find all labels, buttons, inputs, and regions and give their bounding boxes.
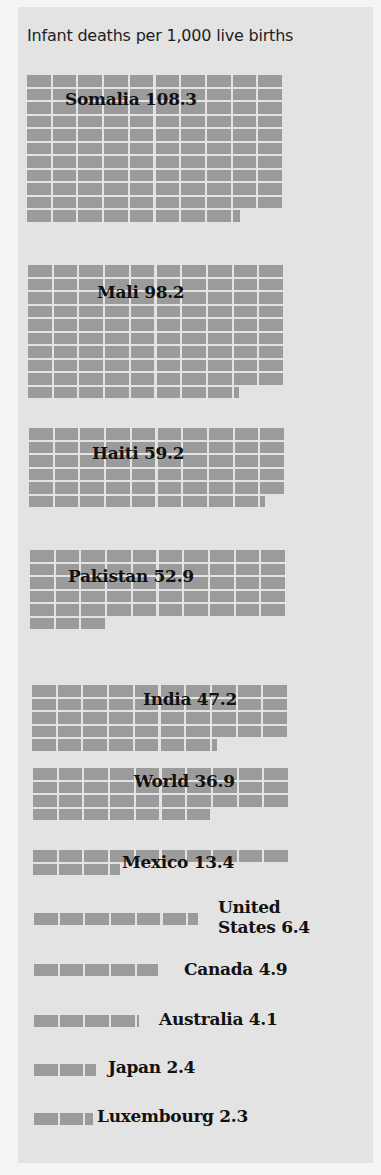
unit-cell	[55, 496, 79, 508]
unit-cell	[234, 319, 258, 331]
unit-cell	[236, 604, 260, 616]
unit-cell	[81, 591, 105, 603]
unit-cell	[104, 170, 128, 182]
partial-unit-cell	[260, 496, 265, 508]
unit-cell	[182, 346, 206, 358]
country-label-line: States 6.4	[218, 918, 310, 938]
unit-cell	[106, 428, 130, 440]
unit-cell	[258, 116, 282, 128]
unit-cell	[181, 156, 205, 168]
unit-cell	[260, 482, 284, 494]
unit-cell	[131, 373, 155, 385]
unit-cell	[183, 482, 207, 494]
unit-cell	[60, 1064, 84, 1076]
unit-cell	[213, 795, 237, 807]
unit-cell	[111, 1015, 135, 1027]
unit-cell	[235, 455, 259, 467]
unit-cell	[209, 469, 233, 481]
unit-cell	[53, 210, 77, 222]
unit-cell	[181, 197, 205, 209]
unit-cell	[235, 482, 259, 494]
unit-cell	[159, 550, 183, 562]
unit-cell	[233, 143, 257, 155]
partial-unit-cell	[81, 618, 104, 630]
unit-cell	[55, 428, 79, 440]
unit-cell	[182, 387, 206, 399]
unit-cell	[258, 197, 282, 209]
unit-cell	[210, 564, 234, 576]
unit-cell	[54, 360, 78, 372]
unit-cell	[132, 469, 156, 481]
unit-cell	[182, 333, 206, 345]
unit-cell	[207, 156, 231, 168]
partial-unit-cell	[110, 864, 120, 876]
unit-cell	[264, 795, 288, 807]
unit-cell	[130, 75, 154, 87]
unit-cell	[33, 864, 57, 876]
unit-cell	[28, 306, 52, 318]
unit-cell	[54, 279, 78, 291]
unit-cell	[210, 591, 234, 603]
unit-cell	[105, 265, 129, 277]
unit-cell	[209, 482, 233, 494]
unit-cell	[29, 482, 53, 494]
unit-cell	[208, 279, 232, 291]
unit-cell	[233, 89, 257, 101]
unit-cell	[53, 183, 77, 195]
country-label: World 36.9	[134, 772, 235, 792]
unit-cell	[29, 455, 53, 467]
unit-cell	[133, 591, 157, 603]
unit-cell	[27, 89, 51, 101]
unit-cell	[156, 197, 180, 209]
unit-cell	[28, 373, 52, 385]
unit-cell	[186, 712, 210, 724]
unit-cell	[105, 319, 129, 331]
partial-unit-cell	[137, 1015, 140, 1027]
unit-cell	[233, 183, 257, 195]
unit-cell	[161, 726, 185, 738]
unit-cell	[135, 712, 159, 724]
partial-unit-cell	[188, 913, 198, 925]
unit-cell	[159, 604, 183, 616]
unit-cell	[27, 129, 51, 141]
unit-cell	[207, 116, 231, 128]
unit-cell	[258, 75, 282, 87]
unit-cell	[236, 550, 260, 562]
unit-cell	[182, 265, 206, 277]
unit-cell	[78, 143, 102, 155]
unit-cell	[183, 442, 207, 454]
unit-cell	[56, 550, 80, 562]
country-label: Canada 4.9	[184, 960, 287, 980]
unit-cell	[34, 1113, 58, 1125]
unit-cell	[133, 604, 157, 616]
unit-cell	[107, 591, 131, 603]
unit-cell	[207, 129, 231, 141]
unit-cell	[60, 1015, 84, 1027]
unit-cell	[260, 442, 284, 454]
unit-cell	[56, 604, 80, 616]
unit-cell	[261, 604, 285, 616]
unit-cell	[59, 768, 83, 780]
unit-cell	[27, 116, 51, 128]
unit-cell	[59, 782, 83, 794]
unit-cell	[264, 850, 288, 862]
unit-cell	[207, 75, 231, 87]
unit-cell	[30, 618, 54, 630]
unit-cell	[79, 387, 103, 399]
unit-cell	[80, 469, 104, 481]
unit-cell	[30, 604, 54, 616]
unit-cell	[33, 782, 57, 794]
unit-cell	[207, 210, 231, 222]
unit-cell	[33, 809, 57, 821]
unit-cell	[54, 306, 78, 318]
unit-cell	[28, 387, 52, 399]
unit-cell	[187, 795, 211, 807]
unit-cell	[85, 1015, 109, 1027]
unit-cell	[34, 1015, 58, 1027]
unit-cell	[157, 333, 181, 345]
unit-cell	[208, 265, 232, 277]
unit-cell	[233, 170, 257, 182]
unit-cell	[236, 564, 260, 576]
unit-cell	[156, 210, 180, 222]
partial-unit-cell	[212, 739, 217, 751]
